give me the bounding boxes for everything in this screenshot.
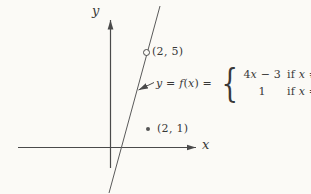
if-keyword: if: [287, 68, 299, 81]
piecewise-cases: 4x − 3 if x ≠ 2 1 if x = 2: [243, 66, 311, 101]
closed-point-label: (2, 1): [157, 122, 188, 135]
closed-point-marker: [146, 127, 150, 131]
not-equal-2: ≠ 2: [305, 68, 311, 81]
case-2-expression: 1: [243, 83, 281, 101]
function-definition: y = f(x) = { 4x − 3 if x ≠ 2 1 if x = 2: [156, 62, 311, 104]
if-keyword: if: [287, 85, 299, 98]
case-1-condition: if x ≠ 2: [287, 66, 311, 84]
right-paren-equals: ) =: [194, 77, 215, 90]
case-2-condition: if x = 2: [287, 83, 311, 101]
equals-sign: =: [162, 77, 179, 90]
function-line: [109, 6, 160, 193]
open-point-marker: [144, 50, 150, 56]
x-axis-label: x: [202, 138, 209, 152]
constant-term: − 3: [257, 68, 281, 81]
coefficient: 4: [243, 68, 250, 81]
equal-2: = 2: [305, 85, 311, 98]
equation-lhs: y = f(x) =: [156, 77, 216, 90]
function-graph-figure: y x (2, 5) (2, 1) y = f(x) = { 4x − 3 if…: [0, 0, 311, 194]
open-point-label: (2, 5): [152, 45, 183, 58]
case-1-expression: 4x − 3: [243, 66, 281, 84]
y-axis-label: y: [92, 4, 99, 18]
equation-arrow: [139, 83, 155, 91]
cases-brace: {: [221, 62, 238, 102]
